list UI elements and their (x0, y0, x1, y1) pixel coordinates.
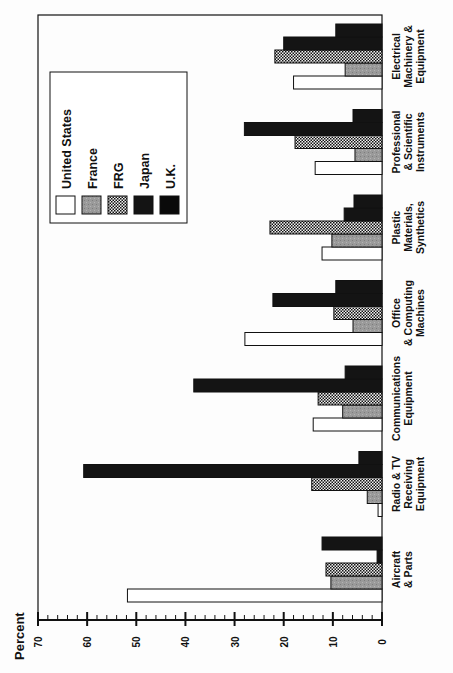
bar (354, 195, 382, 208)
bar (344, 208, 382, 221)
tick-label: 40 (180, 636, 191, 648)
bar (194, 379, 382, 392)
bar (315, 162, 382, 175)
bar-group (275, 24, 382, 89)
category-label: Office (390, 298, 402, 328)
legend-label: FRG (112, 163, 126, 189)
bar (294, 76, 382, 89)
bar-chart: 010203040506070 Aircraft& PartsRadio & T… (0, 0, 453, 673)
category-label: Electrical (390, 33, 402, 80)
category-label: & Parts (402, 551, 414, 588)
bar (318, 392, 382, 405)
bar-group (244, 110, 382, 175)
bar (84, 465, 382, 478)
legend: United StatesFranceFRGJapanU.K. (50, 72, 187, 223)
bar (345, 366, 382, 379)
category-label: Equipment (414, 456, 426, 511)
bar (367, 491, 382, 504)
bar-group (194, 366, 382, 431)
bar (331, 576, 382, 589)
value-axis: 010203040506070 (33, 612, 388, 648)
bar (359, 452, 382, 465)
bar (336, 24, 382, 37)
bar (345, 63, 382, 76)
tick-label: 0 (377, 639, 388, 645)
bar (245, 333, 382, 346)
bar (355, 149, 382, 162)
bar (313, 418, 382, 431)
bar-group (84, 452, 382, 517)
category-label: Receiving (402, 459, 414, 509)
bar (343, 405, 382, 418)
bar-group (127, 537, 382, 602)
category-label: Plastic (390, 210, 402, 244)
bar (336, 281, 382, 294)
category-label: Communications (390, 356, 402, 441)
bar (378, 504, 382, 517)
bar (332, 234, 382, 247)
bar (244, 123, 382, 136)
legend-swatch (82, 196, 101, 214)
bar (334, 307, 382, 320)
bar (312, 478, 382, 491)
category-labels: Aircraft& PartsRadio & TVReceivingEquipm… (390, 25, 426, 588)
bar (284, 37, 382, 50)
bar (326, 563, 382, 576)
bar (295, 136, 382, 149)
bar (127, 589, 382, 602)
legend-label: United States (60, 109, 74, 189)
tick-label: 60 (82, 636, 93, 648)
category-label: Machinery & (402, 25, 414, 88)
category-label: Professional (390, 110, 402, 173)
category-label: & Computing (402, 280, 414, 346)
tick-label: 70 (33, 636, 44, 648)
tick-label: 20 (279, 636, 290, 648)
legend-swatch (160, 196, 179, 214)
bar (377, 550, 382, 563)
category-label: Instruments (414, 112, 426, 172)
bar (275, 50, 382, 63)
category-label: Equipment (402, 371, 414, 426)
legend-label: Japan (138, 153, 152, 189)
legend-label: U.K. (164, 164, 178, 189)
tick-label: 30 (230, 636, 241, 648)
axis-title-percent: Percent (12, 612, 27, 660)
bar (322, 537, 382, 550)
legend-swatch (108, 196, 127, 214)
bar (270, 221, 382, 234)
legend-swatch (134, 196, 153, 214)
category-label: Synthetics (414, 201, 426, 254)
bar (353, 320, 382, 333)
category-label: Equipment (414, 29, 426, 84)
bar-group (270, 195, 382, 260)
legend-label: France (86, 148, 100, 189)
category-label: Materials, (402, 203, 414, 252)
bar (322, 247, 382, 260)
bar-group (245, 281, 382, 346)
tick-label: 50 (131, 636, 142, 648)
bar (353, 110, 382, 123)
category-label: Aircraft (390, 550, 402, 588)
bar (273, 294, 382, 307)
category-label: Machines (414, 289, 426, 337)
legend-swatch (56, 196, 75, 214)
category-label: & Scientific (402, 113, 414, 170)
tick-label: 10 (328, 636, 339, 648)
category-label: Radio & TV (390, 456, 402, 512)
